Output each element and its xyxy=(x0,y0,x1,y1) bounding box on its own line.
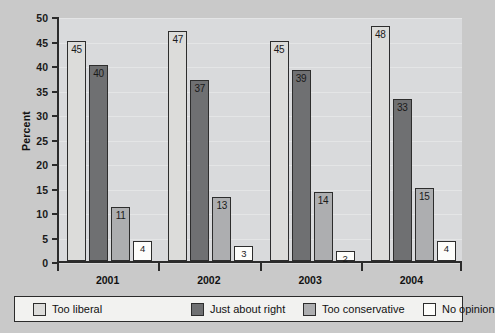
bar[interactable]: 11 xyxy=(111,207,130,261)
y-axis-tick: 5 xyxy=(42,233,59,245)
bar[interactable]: 13 xyxy=(212,197,231,261)
x-axis-tick-mark xyxy=(158,263,160,271)
bar-value-label: 14 xyxy=(318,196,329,206)
y-axis-tick: 45 xyxy=(36,37,59,49)
bar-group: 4737133 xyxy=(160,18,261,261)
x-axis-tick-mark xyxy=(57,263,59,271)
legend-item-label: Too conservative xyxy=(322,303,405,315)
bar-value-label: 13 xyxy=(217,201,228,211)
y-axis-tick: 50 xyxy=(36,12,59,24)
legend-item-label: No opinion xyxy=(442,303,495,315)
y-axis-tick-label: 30 xyxy=(36,110,48,122)
y-axis-tick: 25 xyxy=(36,135,59,147)
bar-value-label: 45 xyxy=(274,45,285,55)
legend-item-label: Just about right xyxy=(210,303,285,315)
y-axis-tick-mark xyxy=(52,164,59,166)
y-axis-tick-label: 25 xyxy=(36,135,48,147)
bar[interactable]: 37 xyxy=(190,80,209,261)
y-axis-tick-label: 10 xyxy=(36,208,48,220)
bar[interactable]: 45 xyxy=(270,41,289,262)
legend-item-label: Too liberal xyxy=(52,303,102,315)
legend-item[interactable]: Too conservative xyxy=(303,303,405,316)
y-axis-tick-mark xyxy=(52,115,59,117)
y-axis-tick-label: 5 xyxy=(42,233,48,245)
bar-group: 4540114 xyxy=(59,18,160,261)
y-axis-tick: 20 xyxy=(36,159,59,171)
bar[interactable]: 40 xyxy=(89,65,108,261)
bar[interactable]: 15 xyxy=(415,188,434,262)
y-axis-tick-mark xyxy=(52,42,59,44)
bar[interactable]: 3 xyxy=(234,246,253,261)
bar-value-label: 11 xyxy=(116,211,126,221)
y-axis-tick-mark xyxy=(52,140,59,142)
legend-item[interactable]: Just about right xyxy=(191,303,285,316)
y-axis-tick: 30 xyxy=(36,110,59,122)
bar-group: 4833154 xyxy=(363,18,464,261)
bars-layer: 4540114473713345391424833154 xyxy=(59,18,462,261)
bar[interactable]: 2 xyxy=(336,251,355,261)
x-axis-tick-mark xyxy=(260,263,262,271)
y-axis-tick: 35 xyxy=(36,86,59,98)
y-axis-tick-label: 20 xyxy=(36,159,48,171)
x-axis-category-label: 2002 xyxy=(197,274,220,286)
legend-swatch-icon xyxy=(191,303,204,316)
bar-value-label: 4 xyxy=(444,244,449,254)
x-axis-tick-mark xyxy=(361,263,363,271)
y-axis-tick-label: 15 xyxy=(36,184,48,196)
x-axis-category-label: 2004 xyxy=(400,274,423,286)
bar[interactable]: 33 xyxy=(393,99,412,261)
x-axis: 2001200220032004 xyxy=(57,263,462,289)
x-axis-category-label: 2001 xyxy=(96,274,119,286)
bar-value-label: 40 xyxy=(93,69,104,79)
y-axis-tick-label: 35 xyxy=(36,86,48,98)
y-axis-tick-mark xyxy=(52,238,59,240)
y-axis-tick: 15 xyxy=(36,184,59,196)
bar-value-label: 37 xyxy=(195,84,206,94)
y-axis-tick: 10 xyxy=(36,208,59,220)
bar[interactable]: 4 xyxy=(437,241,456,261)
bar-value-label: 39 xyxy=(296,74,307,84)
y-axis-tick: 40 xyxy=(36,61,59,73)
y-axis-tick-label: 50 xyxy=(36,12,48,24)
bar-group: 4539142 xyxy=(262,18,363,261)
bar-value-label: 45 xyxy=(71,45,82,55)
bar-value-label: 4 xyxy=(140,244,145,254)
bar-value-label: 48 xyxy=(375,30,386,40)
legend-item[interactable]: No opinion xyxy=(423,303,495,316)
legend-swatch-icon xyxy=(33,303,46,316)
y-axis-tick-label: 0 xyxy=(42,257,48,269)
y-axis-tick-mark xyxy=(52,66,59,68)
y-axis-tick-label: 45 xyxy=(36,37,48,49)
bar-value-label: 15 xyxy=(419,192,430,202)
bar-value-label: 47 xyxy=(173,35,184,45)
legend-item[interactable]: Too liberal xyxy=(33,303,102,316)
bar[interactable]: 39 xyxy=(292,70,311,261)
bar[interactable]: 45 xyxy=(67,41,86,262)
y-axis-title: Percent xyxy=(20,111,32,151)
y-axis-tick-mark xyxy=(52,213,59,215)
bar-value-label: 33 xyxy=(397,103,408,113)
bar[interactable]: 14 xyxy=(314,192,333,261)
chart-legend: Too liberalJust about rightToo conservat… xyxy=(14,296,463,322)
y-axis-tick-mark xyxy=(52,91,59,93)
x-axis-category-label: 2003 xyxy=(298,274,321,286)
y-axis-tick-mark xyxy=(52,17,59,19)
bar[interactable]: 48 xyxy=(371,26,390,261)
x-axis-tick-mark xyxy=(460,263,462,271)
legend-swatch-icon xyxy=(303,303,316,316)
legend-swatch-icon xyxy=(423,303,436,316)
bar-value-label: 3 xyxy=(241,249,246,259)
plot-area: 05101520253035404550 4540114473713345391… xyxy=(57,18,462,263)
bar[interactable]: 4 xyxy=(133,241,152,261)
y-axis-tick-mark xyxy=(52,189,59,191)
bar[interactable]: 47 xyxy=(168,31,187,261)
y-axis-tick-label: 40 xyxy=(36,61,48,73)
